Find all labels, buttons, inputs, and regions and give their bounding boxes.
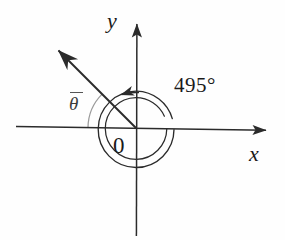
y-axis-line <box>136 24 137 236</box>
angle-diagram-figure: y x 0 495° θ <box>0 0 285 240</box>
diagram-canvas <box>0 0 285 240</box>
x-axis-label: x <box>249 143 259 165</box>
x-axis-line <box>16 126 266 130</box>
y-axis-label: y <box>107 10 117 32</box>
reference-angle-arc <box>88 94 102 127</box>
theta-glyph: θ <box>69 93 78 114</box>
reference-angle-label: θ <box>69 92 83 113</box>
angle-measure-label: 495° <box>174 75 216 96</box>
terminal-side-ray <box>59 51 137 129</box>
origin-label: 0 <box>113 134 125 157</box>
